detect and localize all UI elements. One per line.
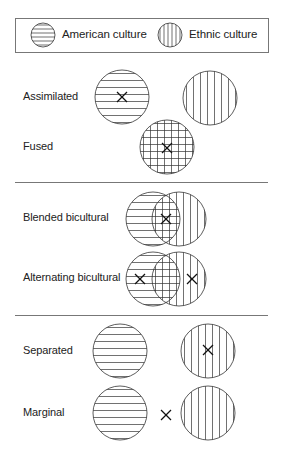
ethnic-culture-circle (152, 252, 206, 306)
alternating-bicultural-diagram (126, 252, 206, 306)
row-label-separated: Separated (23, 344, 73, 356)
separated-diagram (93, 324, 235, 378)
assimilated-diagram (95, 70, 237, 125)
acculturation-diagram (0, 0, 282, 456)
ethnic-culture-pattern (187, 71, 236, 125)
american-culture-legend-icon (31, 23, 55, 47)
american-culture-pattern (93, 328, 147, 377)
american-culture-pattern (95, 74, 149, 123)
american-culture-circle (93, 386, 147, 440)
fused-culture-circle (140, 120, 194, 174)
american-culture-circle (126, 192, 180, 246)
row-label-marginal: Marginal (23, 406, 64, 418)
row-label-alternating-bicultural: Alternating bicultural (23, 271, 120, 283)
row-label-assimilated: Assimilated (23, 90, 78, 102)
ethnic-culture-circle (181, 324, 235, 378)
marginal-diagram (93, 386, 235, 440)
ethnic-culture-circle (183, 71, 237, 125)
american-culture-circle (126, 252, 180, 306)
row-label-fused: Fused (23, 140, 53, 152)
x-mark-icon (161, 410, 171, 420)
american-culture-pattern (126, 256, 180, 305)
x-mark-icon (117, 92, 127, 102)
ethnic-culture-circle (181, 386, 235, 440)
legend-ethnic-label: Ethnic culture (189, 28, 257, 40)
american-culture-circle (31, 23, 55, 47)
american-culture-pattern (126, 196, 180, 245)
american-culture-circle (93, 324, 147, 378)
x-mark-icon (187, 274, 197, 284)
x-mark-icon (135, 274, 145, 284)
american-culture-pattern (93, 390, 147, 439)
ethnic-culture-pattern (185, 386, 234, 440)
row-label-blended-bicultural: Blended bicultural (23, 211, 109, 223)
blended-bicultural-diagram (126, 192, 206, 246)
american-culture-pattern (31, 25, 55, 45)
x-mark-icon (203, 345, 213, 355)
ethnic-culture-circle (158, 23, 182, 47)
legend-american-label: American culture (62, 28, 147, 40)
fused-diagram (140, 120, 194, 174)
ethnic-culture-legend-icon (158, 23, 182, 47)
ethnic-culture-circle (152, 192, 206, 246)
ethnic-culture-pattern (160, 23, 180, 47)
